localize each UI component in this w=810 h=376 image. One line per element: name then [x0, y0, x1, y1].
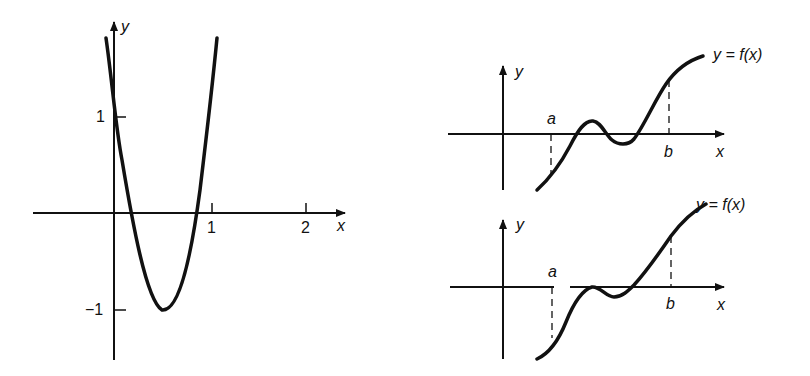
left-y-tick-label-neg1: −1 — [85, 302, 103, 318]
left-curve — [106, 38, 217, 310]
br-x-axis-label: x — [717, 297, 725, 313]
left-x-axis-label: x — [337, 218, 345, 234]
left-x-tick-label-1: 1 — [207, 220, 216, 236]
figure-canvas — [0, 0, 810, 376]
tr-point-b-label: b — [664, 144, 673, 160]
br-curve-label: y = f(x) — [696, 197, 745, 213]
tr-curve — [537, 56, 703, 190]
br-curve — [537, 204, 706, 359]
br-point-b-label: b — [666, 296, 675, 312]
tr-x-axis-label: x — [716, 144, 724, 160]
tr-y-axis-label: y — [515, 64, 523, 80]
left-x-tick-label-2: 2 — [301, 220, 310, 236]
left-y-axis-label: y — [121, 19, 129, 35]
top-right-plot — [448, 56, 724, 190]
tr-point-a-label: a — [547, 111, 556, 127]
left-plot — [33, 22, 345, 360]
bottom-right-plot — [450, 204, 724, 359]
left-y-tick-label-1: 1 — [96, 109, 105, 125]
br-point-a-label: a — [548, 264, 557, 280]
tr-curve-label: y = f(x) — [713, 47, 762, 63]
br-y-axis-label: y — [516, 217, 524, 233]
